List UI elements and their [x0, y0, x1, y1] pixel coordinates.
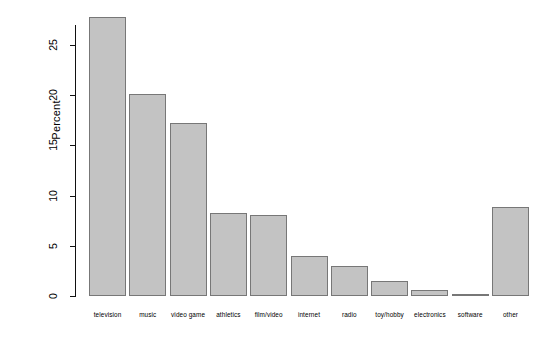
bar-other [492, 207, 529, 296]
plot-area: televisionmusicvideo gameathleticsfilm/v… [0, 0, 549, 342]
bar-music [129, 94, 166, 296]
chart-page: Percent 0510152025 televisionmusicvideo … [0, 0, 549, 342]
bar-athletics [210, 213, 247, 296]
bar-electronics [411, 290, 448, 296]
bar-internet [291, 256, 328, 296]
x-tick-label-other: other [483, 311, 538, 323]
bar-toy-hobby [371, 281, 408, 296]
bar-radio [331, 266, 368, 296]
bar-television [89, 17, 126, 296]
bar-software [452, 294, 489, 296]
bar-film-video [250, 215, 287, 296]
bar-video-game [170, 123, 207, 296]
